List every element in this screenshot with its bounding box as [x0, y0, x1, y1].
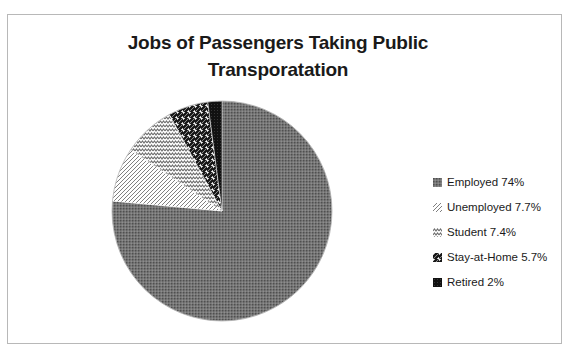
- legend-swatch-stay-at-home-icon: [433, 253, 442, 262]
- legend-label-stay-at-home: Stay-at-Home 5.7%: [447, 251, 547, 264]
- legend-swatch-retired-icon: [433, 278, 442, 287]
- legend-item-employed: Employed 74%: [433, 170, 568, 195]
- chart-title-line-2: Transporatation: [68, 56, 488, 83]
- legend-item-student: Student 7.4%: [433, 220, 568, 245]
- pie-chart: [111, 100, 333, 322]
- chart-frame: Jobs of Passengers Taking Public Transpo…: [7, 14, 562, 344]
- legend-item-unemployed: Unemployed 7.7%: [433, 195, 568, 220]
- legend-swatch-student-icon: [433, 228, 442, 237]
- legend-label-unemployed: Unemployed 7.7%: [447, 201, 541, 214]
- chart-title: Jobs of Passengers Taking Public Transpo…: [68, 29, 488, 83]
- legend-label-employed: Employed 74%: [447, 176, 524, 189]
- legend-swatch-unemployed-icon: [433, 203, 442, 212]
- legend-swatch-employed-icon: [433, 178, 442, 187]
- legend-label-retired: Retired 2%: [447, 276, 504, 289]
- chart-title-line-1: Jobs of Passengers Taking Public: [68, 29, 488, 56]
- chart-legend: Employed 74% Unemployed 7.7% Student 7.4…: [433, 170, 568, 295]
- legend-item-stay-at-home: Stay-at-Home 5.7%: [433, 245, 568, 270]
- pie-chart-svg: [111, 100, 333, 322]
- legend-label-student: Student 7.4%: [447, 226, 516, 239]
- legend-item-retired: Retired 2%: [433, 270, 568, 295]
